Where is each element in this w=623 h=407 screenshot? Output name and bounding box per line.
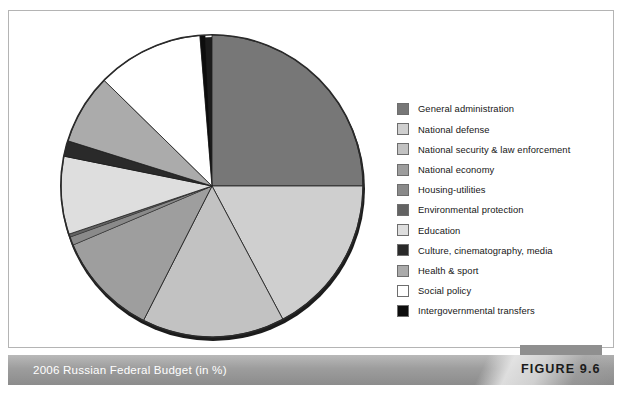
legend-item-label: National security & law enforcement	[418, 145, 570, 154]
legend-swatch-icon	[397, 143, 409, 155]
legend-item[interactable]: Social policy	[389, 281, 614, 301]
pie-slice[interactable]	[212, 35, 363, 186]
legend-item-label: National defense	[418, 125, 490, 134]
legend-item[interactable]: Housing-utilities	[389, 180, 614, 200]
figure-number-label: FIGURE 9.6	[521, 362, 601, 376]
legend-item[interactable]: Culture, cinematography, media	[389, 240, 614, 260]
legend-item-label: Culture, cinematography, media	[418, 246, 553, 255]
legend-item[interactable]: Health & sport	[389, 261, 614, 281]
legend-item-label: Social policy	[418, 286, 471, 295]
legend-item-label: Intergovernmental transfers	[418, 306, 535, 315]
chart-legend: General administrationNational defenseNa…	[389, 99, 614, 321]
legend-item-label: Education	[418, 226, 460, 235]
legend-item[interactable]: Education	[389, 220, 614, 240]
legend-swatch-icon	[397, 123, 409, 135]
figure-container: General administrationNational defenseNa…	[0, 0, 623, 407]
legend-swatch-icon	[397, 265, 409, 277]
legend-item-label: Housing-utilities	[418, 185, 486, 194]
legend-swatch-icon	[397, 204, 409, 216]
legend-swatch-icon	[397, 164, 409, 176]
legend-item[interactable]: Intergovernmental transfers	[389, 301, 614, 321]
legend-swatch-icon	[397, 305, 409, 317]
legend-swatch-icon	[397, 103, 409, 115]
legend-item-label: General administration	[418, 104, 514, 113]
legend-swatch-icon	[397, 224, 409, 236]
legend-item-label: Health & sport	[418, 266, 479, 275]
legend-item[interactable]: National economy	[389, 160, 614, 180]
legend-item[interactable]: General administration	[389, 99, 614, 119]
legend-item-label: Environmental protection	[418, 205, 524, 214]
pie-chart	[51, 23, 376, 348]
pie-slice-group	[61, 35, 363, 337]
legend-item[interactable]: Environmental protection	[389, 200, 614, 220]
legend-item-label: National economy	[418, 165, 494, 174]
legend-item[interactable]: National security & law enforcement	[389, 139, 614, 159]
legend-item[interactable]: National defense	[389, 119, 614, 139]
legend-swatch-icon	[397, 285, 409, 297]
legend-swatch-icon	[397, 244, 409, 256]
plot-frame: General administrationNational defenseNa…	[8, 10, 614, 348]
legend-swatch-icon	[397, 184, 409, 196]
pie-chart-svg	[51, 23, 376, 348]
figure-caption: 2006 Russian Federal Budget (in %)	[33, 363, 227, 376]
